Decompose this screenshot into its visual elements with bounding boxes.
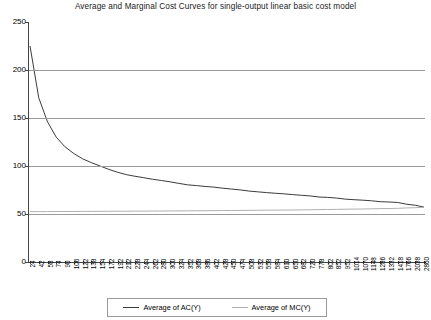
y-tick-mark <box>25 22 29 23</box>
legend-swatch-icon <box>123 307 139 308</box>
gridline <box>29 118 425 119</box>
gridline <box>29 70 425 71</box>
x-tick: 952 <box>342 264 349 300</box>
x-tick: 802 <box>324 264 331 300</box>
x-tick: 852 <box>333 264 340 300</box>
x-tick: 778 <box>315 264 322 300</box>
chart-container: Average and Marginal Cost Curves for sin… <box>0 0 431 320</box>
x-tick: 90 <box>62 264 69 300</box>
x-tick: 138 <box>88 264 95 300</box>
x-tick: 228 <box>132 264 139 300</box>
x-tick: 42 <box>35 264 42 300</box>
y-tick-mark <box>25 166 29 167</box>
y-tick-mark <box>25 262 29 263</box>
x-tick: 584 <box>272 264 279 300</box>
legend-label: Average of MC(Y) <box>252 303 311 312</box>
x-tick: 2038 <box>412 264 419 300</box>
y-tick-label: 50 <box>2 210 26 218</box>
x-tick: 74 <box>53 264 60 300</box>
y-tick-label: 100 <box>2 162 26 170</box>
x-tick: 262 <box>149 264 156 300</box>
series-line <box>30 207 424 211</box>
x-tick: 300 <box>167 264 174 300</box>
legend-swatch-icon <box>232 307 248 308</box>
x-tick: 610 <box>280 264 287 300</box>
x-tick: 324 <box>175 264 182 300</box>
x-tick: 474 <box>237 264 244 300</box>
x-tick: 508 <box>245 264 252 300</box>
x-tick: 352 <box>184 264 191 300</box>
x-tick: 172 <box>105 264 112 300</box>
chart-title: Average and Marginal Cost Curves for sin… <box>0 2 431 11</box>
x-tick: 58 <box>44 264 51 300</box>
y-axis-labels: 050100150200250 <box>0 0 26 320</box>
x-tick: 106 <box>70 264 77 300</box>
x-tick: 212 <box>123 264 130 300</box>
x-tick: 558 <box>263 264 270 300</box>
gridline <box>29 214 425 215</box>
gridline <box>29 166 425 167</box>
legend-entry[interactable]: Average of AC(Y) <box>123 303 200 312</box>
x-tick: 450 <box>228 264 235 300</box>
x-tick: 386 <box>202 264 209 300</box>
x-tick: 1070 <box>359 264 366 300</box>
y-tick-mark <box>25 70 29 71</box>
x-tick: 402 <box>210 264 217 300</box>
legend-entry[interactable]: Average of MC(Y) <box>232 303 311 312</box>
x-tick: 154 <box>97 264 104 300</box>
x-tick: 1332 <box>385 264 392 300</box>
x-tick: 720 <box>307 264 314 300</box>
y-tick-label: 0 <box>2 258 26 266</box>
x-tick: 122 <box>79 264 86 300</box>
x-tick-label: 2860 <box>424 257 430 271</box>
x-tick: 280 <box>158 264 165 300</box>
x-tick: 532 <box>254 264 261 300</box>
x-tick: 1014 <box>350 264 357 300</box>
y-tick-mark <box>25 118 29 119</box>
y-tick-label: 250 <box>2 18 26 26</box>
x-tick: 368 <box>193 264 200 300</box>
x-tick: 1766 <box>403 264 410 300</box>
x-tick: 428 <box>219 264 226 300</box>
x-tick: 1286 <box>377 264 384 300</box>
y-tick-label: 200 <box>2 66 26 74</box>
x-tick: 244 <box>140 264 147 300</box>
series-lines <box>29 22 425 262</box>
y-tick-label: 150 <box>2 114 26 122</box>
y-tick-mark <box>25 214 29 215</box>
x-tick: 1148 <box>368 264 375 300</box>
x-tick: 192 <box>114 264 121 300</box>
x-tick: 2860 <box>421 264 428 300</box>
x-tick: 24 <box>27 264 34 300</box>
plot-area <box>29 22 425 262</box>
x-tick: 650 <box>289 264 296 300</box>
legend-label: Average of AC(Y) <box>143 303 200 312</box>
x-tick: 1418 <box>394 264 401 300</box>
chart-legend: Average of AC(Y)Average of MC(Y) <box>107 298 327 317</box>
x-tick: 682 <box>298 264 305 300</box>
